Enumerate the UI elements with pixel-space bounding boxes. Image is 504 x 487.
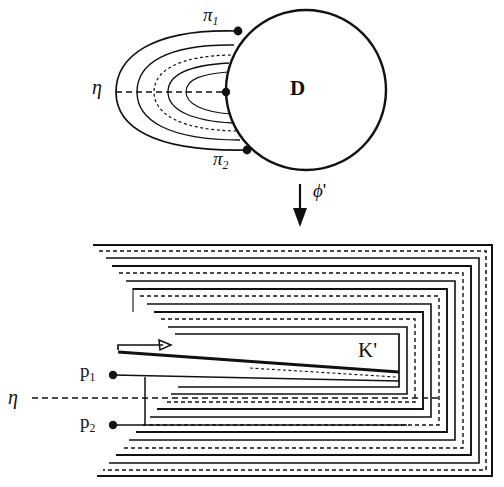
point-pi2 <box>243 146 252 155</box>
disk-D-boundary <box>226 10 386 170</box>
spiral-turn-2-dashed <box>119 273 463 448</box>
label-disk-D: D <box>290 76 305 101</box>
disk-panel <box>116 10 386 170</box>
figure-canvas <box>0 0 504 487</box>
phi-prime-arrow <box>293 184 307 227</box>
core-strip-lower <box>113 375 399 381</box>
point-p2 <box>109 421 117 429</box>
label-eta-bottom: η <box>8 386 18 409</box>
label-pi1: π1 <box>203 4 218 29</box>
point-eta-intersection <box>222 88 230 96</box>
label-region-K-prime: K' <box>358 338 377 363</box>
label-p2: p2 <box>80 411 95 436</box>
spiral-turn-2-solid-inner <box>126 281 455 440</box>
spiral-turn-3-dashed <box>140 296 439 425</box>
flow-arrow-shaft <box>118 345 163 350</box>
label-p1: p1 <box>80 360 95 385</box>
spiral-turn-2-solid-outer <box>112 266 471 455</box>
spiral-turn-1-dashed <box>99 251 486 470</box>
point-p1 <box>109 371 117 379</box>
spiral-turn-3-solid-inner <box>147 304 431 417</box>
flow-arrow <box>118 340 171 350</box>
spiral-panel <box>32 245 492 476</box>
label-eta-top: η <box>92 76 102 99</box>
core-strip-upper <box>118 352 399 372</box>
label-pi2: π2 <box>213 148 228 173</box>
spiral-turn-1-solid-outer <box>93 245 492 476</box>
point-pi1 <box>234 27 243 36</box>
spiral-turn-3-solid-outer <box>133 289 447 432</box>
arrow-head <box>293 208 307 227</box>
label-phi-prime: ϕ' <box>313 180 326 202</box>
